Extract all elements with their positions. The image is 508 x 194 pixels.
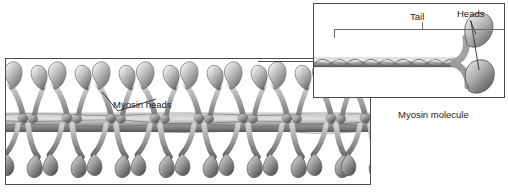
inset-connector-line xyxy=(258,61,318,62)
myosin-head-lower xyxy=(465,60,494,93)
myosin-molecule-panel: Tail Heads xyxy=(313,3,505,98)
myosin-tail xyxy=(314,57,462,68)
tail-label: Tail xyxy=(410,11,424,22)
heads-label: Heads xyxy=(457,8,484,19)
tail-bracket-tick xyxy=(422,22,423,30)
myosin-heads-label: Myosin heads xyxy=(113,99,172,110)
tail-bracket xyxy=(334,29,505,38)
figure-caption: Myosin molecule xyxy=(398,109,469,120)
